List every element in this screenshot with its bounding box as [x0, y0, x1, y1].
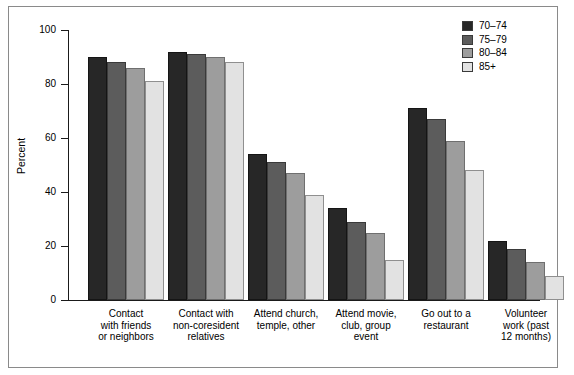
bar	[465, 170, 484, 300]
category-label-line: with friends	[80, 320, 172, 332]
category-label-line: Go out to a	[400, 308, 492, 320]
category-label-line: work (past	[480, 320, 572, 332]
bar	[385, 260, 404, 301]
category-label: Contact withnon-coresidentrelatives	[160, 308, 252, 343]
bar	[286, 173, 305, 300]
x-axis-line	[68, 300, 540, 301]
bar	[328, 208, 347, 300]
category-label: Attend church,temple, other	[240, 308, 332, 331]
bar	[168, 52, 187, 300]
bar	[88, 57, 107, 300]
category-label: Attend movie,club, groupevent	[320, 308, 412, 343]
category-label-line: Attend movie,	[320, 308, 412, 320]
category-label: Volunteerwork (past12 months)	[480, 308, 572, 343]
category-label-line: club, group	[320, 320, 412, 332]
bar	[347, 222, 366, 300]
bar	[145, 81, 164, 300]
y-tick-label: 40	[16, 187, 56, 197]
category-label-line: 12 months)	[480, 331, 572, 343]
bar	[427, 119, 446, 300]
legend-label: 85+	[479, 61, 496, 73]
bar	[488, 241, 507, 300]
y-tick-label: 20	[16, 241, 56, 251]
bar	[225, 62, 244, 300]
bar	[267, 162, 286, 300]
legend-swatch-icon	[462, 21, 473, 31]
legend-swatch-icon	[462, 48, 473, 58]
legend-label: 70–74	[479, 20, 507, 32]
bar	[187, 54, 206, 300]
bar	[206, 57, 225, 300]
category-label-line: restaurant	[400, 320, 492, 332]
y-tick-mark	[61, 138, 68, 139]
bar	[126, 68, 145, 300]
y-axis-title: Percent	[15, 121, 27, 191]
y-tick-label: 60	[16, 133, 56, 143]
legend-swatch-icon	[462, 35, 473, 45]
category-label-line: event	[320, 331, 412, 343]
category-label: Go out to arestaurant	[400, 308, 492, 331]
y-axis-line	[68, 30, 69, 301]
grouped-bar-chart: Percent 020406080100 Contactwith friends…	[0, 0, 574, 375]
bar	[507, 249, 526, 300]
bar	[526, 262, 545, 300]
category-label-line: Contact	[80, 308, 172, 320]
y-tick-mark	[61, 84, 68, 85]
bar	[248, 154, 267, 300]
y-tick-mark	[61, 192, 68, 193]
category-label-line: or neighbors	[80, 331, 172, 343]
category-label-line: Contact with	[160, 308, 252, 320]
bar	[545, 276, 564, 300]
y-tick-mark	[61, 300, 68, 301]
bar	[305, 195, 324, 300]
bar	[446, 141, 465, 300]
y-tick-label: 80	[16, 79, 56, 89]
bar	[408, 108, 427, 300]
y-tick-label: 100	[16, 25, 56, 35]
y-tick-mark	[61, 30, 68, 31]
category-label-line: non-coresident	[160, 320, 252, 332]
category-label-line: relatives	[160, 331, 252, 343]
y-tick-mark	[61, 246, 68, 247]
bar	[366, 233, 385, 301]
category-label: Contactwith friendsor neighbors	[80, 308, 172, 343]
legend-label: 80–84	[479, 47, 507, 59]
category-label-line: temple, other	[240, 320, 332, 332]
legend-label: 75–79	[479, 34, 507, 46]
y-tick-label: 0	[16, 295, 56, 305]
category-label-line: Volunteer	[480, 308, 572, 320]
legend-swatch-icon	[462, 62, 473, 72]
bar	[107, 62, 126, 300]
category-label-line: Attend church,	[240, 308, 332, 320]
